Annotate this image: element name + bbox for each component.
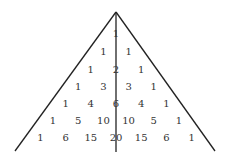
triangle-number: 1 [37,133,43,143]
triangle-number: 5 [75,116,81,126]
triangle-number: 15 [135,133,148,143]
triangle-number: 6 [62,133,68,143]
triangle-number: 6 [163,133,169,143]
triangle-number: 1 [88,65,94,75]
triangle-number: 1 [163,99,169,109]
triangle-number: 1 [113,29,119,39]
triangle-number: 3 [100,82,106,92]
triangle-number: 3 [125,82,131,92]
triangle-number: 4 [138,99,144,109]
triangle-number: 1 [50,116,56,126]
triangle-number: 2 [113,65,119,75]
triangle-number: 20 [110,133,123,143]
triangle-number: 1 [62,99,68,109]
triangle-number: 5 [151,116,157,126]
triangle-number: 6 [113,99,119,109]
triangle-number: 1 [188,133,194,143]
triangle-number: 1 [75,82,81,92]
pascal-triangle-diagram: 111121133114641151010511615201561 [0,0,228,165]
triangle-number: 1 [125,47,131,57]
triangle-number: 10 [122,116,135,126]
triangle-number: 15 [84,133,97,143]
triangle-number: 1 [151,82,157,92]
triangle-number: 10 [97,116,110,126]
triangle-number: 1 [138,65,144,75]
triangle-number: 1 [176,116,182,126]
triangle-number: 4 [88,99,94,109]
triangle-number: 1 [100,47,106,57]
